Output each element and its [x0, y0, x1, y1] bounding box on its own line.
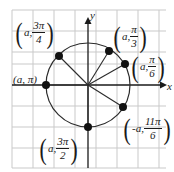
point-3pi-2	[84, 123, 92, 131]
label-pi-over-6: (a,π6)	[130, 54, 166, 79]
fraction-denominator: 2	[56, 150, 69, 162]
fraction-numerator: 3π	[32, 20, 45, 32]
fraction-numerator: 3π	[56, 136, 69, 148]
fraction-3pi-over-4: 3π4	[32, 20, 45, 45]
label-3pi-over-4-lead: a,	[24, 27, 32, 38]
fraction-denominator: 6	[144, 130, 162, 142]
fraction-denominator: 6	[148, 68, 156, 80]
right-paren: )	[47, 21, 54, 45]
right-paren: )	[157, 55, 164, 79]
label-pi-over-6-lead: a,	[140, 61, 148, 72]
fraction-11pi-over-6: 11π6	[144, 116, 162, 141]
right-paren: )	[71, 137, 78, 161]
fraction-pi-over-6: π6	[148, 54, 156, 79]
point-11pi-6	[119, 103, 127, 111]
label-3pi-over-2-lead: a,	[48, 143, 56, 154]
point-3pi-4	[55, 52, 63, 60]
label-pi-over-3: (a,π3)	[112, 24, 148, 49]
fraction-3pi-over-2: 3π2	[56, 136, 69, 161]
left-paren: (	[131, 55, 138, 79]
label-3pi-over-2: (a,3π2)	[38, 136, 79, 161]
label-11pi-over-6: (-a,11π6)	[122, 116, 172, 141]
right-paren: )	[163, 117, 170, 141]
y-axis-label: y	[90, 9, 95, 21]
left-paren: (	[123, 117, 130, 141]
label-3pi-over-4: (a,3π4)	[14, 20, 55, 45]
fraction-numerator: π	[148, 54, 156, 66]
x-axis-label: x	[167, 80, 172, 92]
fraction-denominator: 3	[130, 38, 138, 50]
left-paren: (	[15, 21, 22, 45]
label-pi: (a, π)	[13, 74, 37, 85]
point-pi	[42, 81, 50, 89]
fraction-denominator: 4	[32, 34, 45, 46]
left-paren: (	[39, 137, 46, 161]
right-paren: )	[139, 25, 146, 49]
fraction-numerator: π	[130, 24, 138, 36]
fraction-pi-over-3: π3	[130, 24, 138, 49]
label-pi-over-3-lead: a,	[122, 31, 130, 42]
label-11pi-over-6-lead: -a,	[132, 123, 144, 134]
point-pi-6	[121, 60, 129, 68]
left-paren: (	[113, 25, 120, 49]
fraction-numerator: 11π	[144, 116, 162, 128]
polar-diagram-figure: (a,3π4) (a,π3) (a,π6) (a, π) (-a,11π6) (…	[0, 0, 174, 172]
radial-lines	[46, 51, 125, 127]
